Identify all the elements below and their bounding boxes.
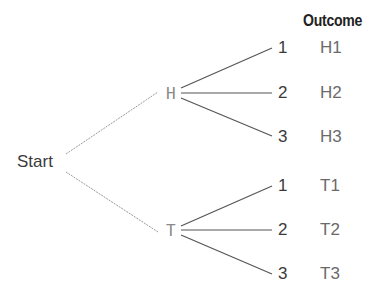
outcome-t2: T2: [320, 220, 340, 240]
edge-h-3: [181, 98, 272, 136]
t-branch-2: 2: [278, 220, 287, 240]
edge-t-3: [181, 235, 272, 274]
h-branch-1: 1: [278, 38, 287, 58]
outcome-h1: H1: [320, 38, 342, 58]
edge-h-1: [181, 48, 272, 88]
outcome-t1: T1: [320, 176, 340, 196]
t-branch-3: 3: [278, 264, 287, 284]
outcome-t3: T3: [320, 264, 340, 284]
h-branch-2: 2: [278, 83, 287, 103]
node-h: H: [166, 84, 176, 104]
start-node: Start: [17, 152, 53, 172]
outcome-h3: H3: [320, 127, 342, 147]
outcome-h2: H2: [320, 83, 342, 103]
h-branch-3: 3: [278, 127, 287, 147]
edge-start-t: [66, 172, 158, 232]
edge-t-1: [181, 186, 272, 226]
outcome-header: Outcome: [303, 12, 362, 30]
edge-start-h: [66, 92, 158, 154]
node-t: T: [166, 221, 176, 241]
t-branch-1: 1: [278, 176, 287, 196]
